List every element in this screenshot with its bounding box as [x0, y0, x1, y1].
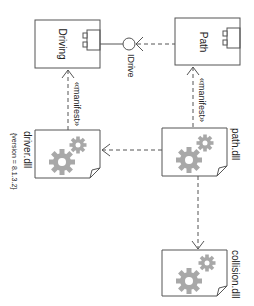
component-path: Path — [175, 18, 240, 65]
artifact-path-dll: path.dll — [162, 128, 241, 176]
component-driving-label: Driving — [57, 28, 68, 59]
artifact-pathdll-label: path.dll — [230, 128, 241, 160]
interface-idrive-label: IDrive — [126, 54, 136, 78]
artifact-driver-dll: driver.dll {version = 8.1.3.2} — [10, 130, 100, 190]
interface-idrive: IDrive — [100, 37, 175, 78]
artifact-collision-label: collision.dll — [230, 250, 241, 298]
uml-diagram: Driving Path IDrive «manifest» «manifest… — [0, 0, 254, 306]
artifact-driver-label: driver.dll — [22, 131, 33, 168]
component-driving: Driving — [35, 20, 100, 68]
dependency-pathdll-to-driver — [102, 144, 162, 156]
dependency-pathdll-to-collision — [192, 176, 204, 249]
component-path-label: Path — [198, 32, 209, 53]
manifest-label: «manifest» — [72, 82, 82, 126]
artifact-collision-dll: collision.dll — [162, 250, 241, 298]
manifest-driver-to-driving: «manifest» — [62, 70, 82, 130]
artifact-driver-version: {version = 8.1.3.2} — [10, 133, 18, 190]
manifest-label: «manifest» — [197, 78, 207, 122]
manifest-pathdll-to-path: «manifest» — [187, 67, 207, 128]
